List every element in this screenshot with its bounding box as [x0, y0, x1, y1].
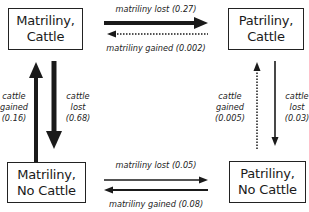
transition-label-line2: gained	[215, 102, 245, 113]
state-label-line1: Matriliny,	[16, 13, 75, 29]
transition-label: matriliny lost	[115, 160, 169, 170]
transition-label-line1: cattle	[215, 91, 245, 102]
transition-label-line1: cattle	[0, 91, 28, 102]
transition-rate: (0.005)	[215, 113, 245, 124]
transition-label: matriliny gained	[106, 43, 173, 53]
arrow-pnc-to-mnc	[104, 187, 208, 194]
label-matriliny-lost-bottom: matriliny lost (0.05)	[115, 160, 196, 171]
transition-rate: (0.002)	[176, 43, 206, 53]
transition-rate: (0.05)	[172, 160, 197, 170]
label-matriliny-gained-bottom: matriliny gained (0.08)	[109, 199, 203, 210]
transition-label-line2: lost	[285, 102, 309, 113]
arrow-mnc-to-mc	[29, 62, 43, 166]
state-label-line1: Matriliny,	[17, 167, 76, 183]
transition-label-line1: cattle	[285, 91, 309, 102]
transition-rate: (0.08)	[178, 199, 203, 209]
arrow-pnc-to-pc	[254, 62, 261, 149]
arrow-mnc-to-pnc	[104, 177, 208, 184]
label-cattle-lost-right: cattle lost (0.03)	[285, 91, 309, 124]
arrow-mc-to-mnc	[46, 61, 62, 149]
label-cattle-gained-left: cattle gained (0.16)	[0, 91, 28, 124]
arrow-pc-to-pnc	[272, 61, 279, 146]
state-patriliny-no-cattle: Patriliny, No Cattle	[229, 161, 306, 203]
transition-rate: (0.03)	[285, 113, 309, 124]
state-label-line1: Patriliny,	[238, 166, 297, 182]
state-label-line1: Patriliny,	[239, 13, 294, 29]
state-label-line2: No Cattle	[238, 182, 297, 198]
state-matriliny-cattle: Matriliny, Cattle	[8, 8, 83, 50]
arrow-pc-to-mc	[107, 31, 208, 38]
transition-label-line1: cattle	[66, 91, 91, 102]
label-matriliny-gained-top: matriliny gained (0.002)	[106, 43, 205, 54]
transition-label: matriliny gained	[109, 199, 176, 209]
transition-label: matriliny lost	[115, 4, 169, 14]
arrow-mc-to-pc	[104, 17, 208, 29]
transition-rate: (0.68)	[66, 113, 91, 124]
state-label-line2: No Cattle	[17, 183, 76, 199]
state-patriliny-cattle: Patriliny, Cattle	[228, 8, 304, 50]
state-label-line2: Cattle	[16, 29, 75, 45]
transition-rate: (0.16)	[0, 113, 28, 124]
label-cattle-lost-left: cattle lost (0.68)	[66, 91, 91, 124]
transition-rate: (0.27)	[172, 4, 197, 14]
state-matriliny-no-cattle: Matriliny, No Cattle	[7, 162, 86, 203]
label-matriliny-lost-top: matriliny lost (0.27)	[115, 4, 196, 15]
transition-label-line2: lost	[66, 102, 91, 113]
state-label-line2: Cattle	[239, 29, 294, 45]
label-cattle-gained-right: cattle gained (0.005)	[215, 91, 245, 124]
transition-label-line2: gained	[0, 102, 28, 113]
